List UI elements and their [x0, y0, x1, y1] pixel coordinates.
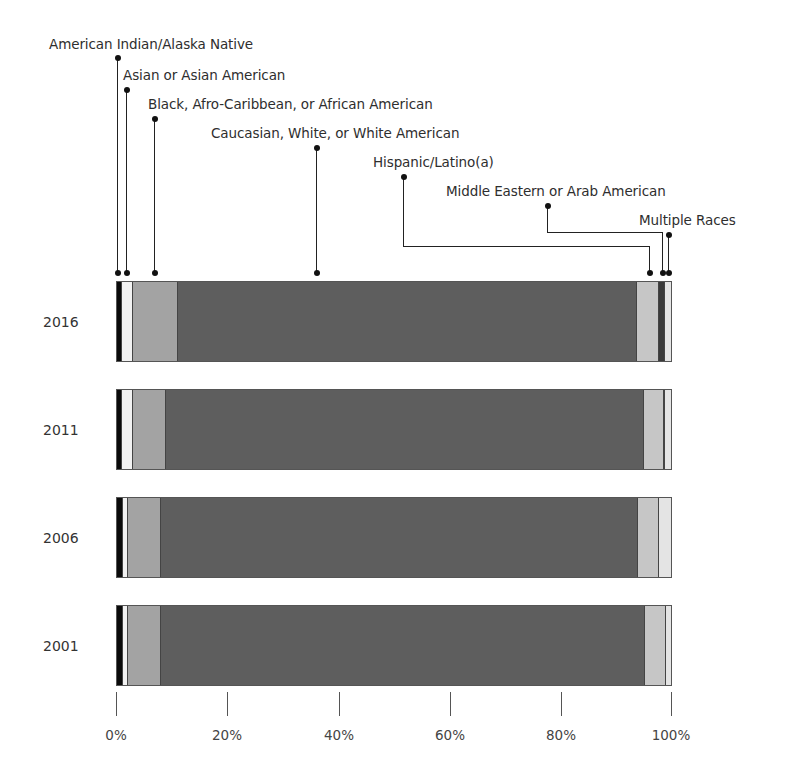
bar-2011 [116, 389, 672, 470]
leader-dot-icon [545, 203, 551, 209]
leader-caucasian [316, 148, 317, 273]
leader-middle-eastern-v2 [662, 232, 663, 273]
leader-dot-icon [666, 270, 672, 276]
bar-segment [665, 390, 671, 469]
x-tick [671, 692, 672, 716]
x-tick-label: 20% [212, 727, 242, 743]
leader-multiple-races [668, 235, 669, 273]
leader-dot-icon [314, 270, 320, 276]
x-tick-label: 40% [324, 727, 354, 743]
bar-segment [659, 498, 671, 577]
bar-segment [122, 390, 133, 469]
bar-segment [161, 498, 639, 577]
year-label-2006: 2006 [43, 530, 79, 546]
legend-label-multiple-races: Multiple Races [639, 212, 736, 228]
leader-dot-icon [152, 270, 158, 276]
legend-label-asian: Asian or Asian American [123, 67, 285, 83]
legend-label-middle-eastern: Middle Eastern or Arab American [446, 183, 666, 199]
leader-dot-icon [152, 116, 158, 122]
bar-segment [133, 390, 166, 469]
leader-dot-icon [314, 145, 320, 151]
x-tick [116, 692, 117, 716]
year-label-2011: 2011 [43, 422, 79, 438]
x-tick-label: 80% [546, 727, 576, 743]
legend-label-black: Black, Afro-Caribbean, or African Americ… [148, 96, 433, 112]
x-tick-label: 60% [435, 727, 465, 743]
bar-segment [644, 390, 664, 469]
leader-dot-icon [115, 270, 121, 276]
leader-american-indian [117, 58, 118, 273]
leader-asian [126, 90, 127, 273]
x-tick-label: 0% [105, 727, 126, 743]
leader-dot-icon [666, 232, 672, 238]
bar-2016 [116, 281, 672, 362]
leader-dot-icon [124, 270, 130, 276]
bar-segment [133, 282, 178, 361]
bar-2006 [116, 497, 672, 578]
leader-middle-eastern-h [547, 232, 662, 233]
x-tick [227, 692, 228, 716]
bar-segment [666, 606, 671, 685]
leader-dot-icon [115, 55, 121, 61]
bar-segment [637, 282, 659, 361]
x-tick [450, 692, 451, 716]
legend-label-american-indian: American Indian/Alaska Native [49, 36, 253, 52]
leader-hispanic [403, 177, 404, 246]
bar-segment [645, 606, 666, 685]
legend-label-hispanic: Hispanic/Latino(a) [373, 154, 494, 170]
leader-hispanic-v2 [649, 246, 650, 273]
bar-2001 [116, 605, 672, 686]
year-label-2016: 2016 [43, 314, 79, 330]
leader-dot-icon [124, 87, 130, 93]
bar-segment [161, 606, 645, 685]
bar-segment [178, 282, 637, 361]
legend-label-caucasian: Caucasian, White, or White American [211, 125, 459, 141]
x-tick-label: 100% [652, 727, 691, 743]
leader-dot-icon [401, 174, 407, 180]
leader-black [154, 119, 155, 273]
bar-segment [665, 282, 671, 361]
leader-middle-eastern [547, 206, 548, 232]
leader-dot-icon [660, 270, 666, 276]
year-label-2001: 2001 [43, 638, 79, 654]
bar-segment [638, 498, 659, 577]
leader-dot-icon [647, 270, 653, 276]
bar-segment [166, 390, 644, 469]
bar-segment [122, 282, 133, 361]
x-tick [561, 692, 562, 716]
leader-hispanic-h [403, 246, 649, 247]
bar-segment [128, 606, 161, 685]
x-tick [339, 692, 340, 716]
bar-segment [128, 498, 161, 577]
